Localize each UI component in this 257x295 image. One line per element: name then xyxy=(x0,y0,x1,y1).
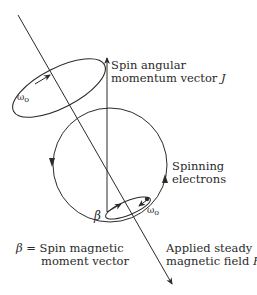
precession-orbit-upper xyxy=(4,47,113,129)
omega-lower-label: ωo xyxy=(147,205,159,217)
precession-direction-arrow-upper xyxy=(35,75,50,84)
circle-direction-arrow-left xyxy=(49,158,55,167)
precession-direction-arrow-lower xyxy=(139,200,147,206)
spinning-electrons-label: Spinning electrons xyxy=(172,160,226,186)
magnetic-moment-vector xyxy=(107,204,121,212)
electron-dot xyxy=(145,197,149,201)
applied-field-label: Applied steady magnetic field Ho xyxy=(166,242,257,271)
circle-direction-arrow-right xyxy=(162,174,168,183)
omega-upper-label: ωo xyxy=(17,92,29,104)
beta-definition-label: β = Spin magnetic moment vector xyxy=(16,242,129,268)
spin-angular-momentum-label: Spin angular momentum vector J xyxy=(111,59,226,85)
beta-label: β xyxy=(94,210,101,223)
